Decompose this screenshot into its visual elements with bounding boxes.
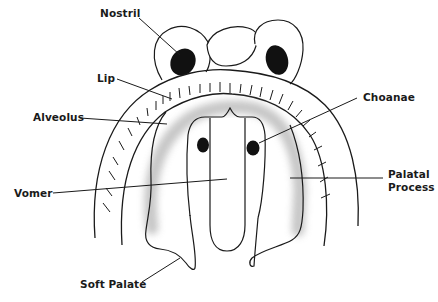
left-choana-icon [197,138,209,153]
label-alveolus: Alveolus [33,111,84,124]
alveolus-leader-line [80,118,167,124]
label-choanae: Choanae [363,91,415,104]
diagram-drawing [0,0,438,302]
label-vomer: Vomer [14,187,53,200]
palate-diagram: Nostril Lip Alveolus Choanae Vomer Palat… [0,0,438,302]
label-soft-palate: Soft Palate [80,278,146,291]
right-choana-icon [247,141,260,156]
label-palatal-process: Palatal Process [388,168,438,194]
label-palatal-process-line1: Palatal [388,168,438,181]
vomer-shape [210,118,245,251]
label-palatal-process-line2: Process [388,181,438,194]
label-lip: Lip [97,72,115,85]
soft-palate-leader-line [142,258,180,282]
middle-bulb [207,27,258,66]
label-nostril: Nostril [100,7,140,20]
